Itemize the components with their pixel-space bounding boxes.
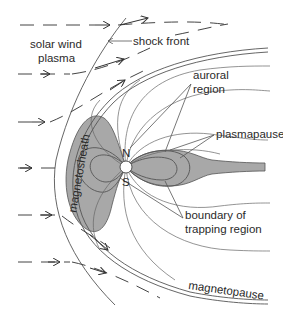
label-solar-wind-2: plasma: [38, 52, 76, 64]
label-plasmapause: plasmapause: [216, 128, 283, 140]
label-auroral-2: region: [193, 83, 225, 95]
label-shock-front: shock front: [133, 35, 190, 47]
earth: [120, 161, 132, 173]
label-auroral-1: auroral: [193, 69, 229, 81]
label-south-pole: S: [122, 176, 130, 188]
label-solar-wind-1: solar wind: [30, 38, 82, 50]
magnetosphere-svg: solar wind plasma shock front auroral re…: [0, 0, 283, 320]
label-boundary-1: boundary of: [185, 209, 247, 221]
label-north-pole: N: [122, 147, 130, 159]
magnetosphere-diagram: solar wind plasma shock front auroral re…: [0, 0, 283, 320]
label-boundary-2: trapping region: [185, 223, 262, 235]
